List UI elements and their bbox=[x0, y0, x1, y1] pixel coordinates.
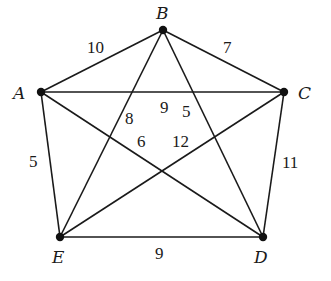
edge-weight-AD: 6 bbox=[137, 132, 146, 151]
weighted-graph-diagram: 1079586125119 ABCDE bbox=[0, 0, 331, 281]
edge-AE bbox=[41, 92, 60, 237]
edge-BE bbox=[60, 30, 163, 237]
edge-weight-BC: 7 bbox=[223, 38, 232, 57]
vertex-C bbox=[280, 88, 288, 96]
edge-CD bbox=[263, 92, 284, 237]
vertex-label-B: B bbox=[155, 3, 169, 23]
edge-weight-BD: 5 bbox=[182, 102, 191, 121]
vertex-A bbox=[37, 88, 45, 96]
edge-weight-CD: 11 bbox=[282, 153, 298, 172]
edge-CE bbox=[60, 92, 284, 237]
vertex-E bbox=[56, 233, 64, 241]
vertex-label-E: E bbox=[51, 247, 65, 267]
graph-edges bbox=[41, 30, 284, 237]
vertex-labels: ABCDE bbox=[11, 3, 311, 267]
edge-weight-labels: 1079586125119 bbox=[29, 38, 298, 263]
vertex-label-A: A bbox=[11, 83, 25, 103]
edge-weight-BE: 8 bbox=[125, 109, 134, 128]
edge-weight-CE: 12 bbox=[172, 132, 189, 151]
edge-weight-AB: 10 bbox=[87, 38, 104, 57]
vertex-D bbox=[259, 233, 267, 241]
edge-weight-ED: 9 bbox=[155, 244, 164, 263]
edge-weight-AC: 9 bbox=[160, 98, 169, 117]
vertex-B bbox=[159, 26, 167, 34]
edge-weight-AE: 5 bbox=[29, 152, 38, 171]
vertex-label-D: D bbox=[253, 247, 268, 267]
vertex-label-C: C bbox=[298, 83, 311, 103]
edge-AD bbox=[41, 92, 263, 237]
